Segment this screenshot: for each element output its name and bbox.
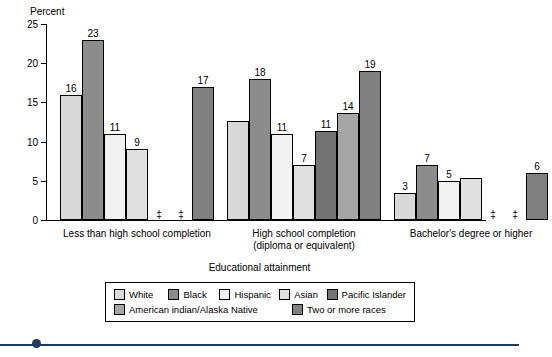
bar-value-two-or-more-g1: 19 xyxy=(364,59,375,70)
y-axis-line xyxy=(46,24,47,220)
y-tick-label-20: 20 xyxy=(27,58,38,69)
y-tick-label-0: 0 xyxy=(32,215,38,226)
legend-label-aian: American indian/Alaska Native xyxy=(129,304,258,315)
bar-value-black-g0: 23 xyxy=(87,28,98,39)
legend-label-two-or-more: Two or more races xyxy=(307,304,386,315)
bar-group-bachelors-or-higher: 3 7 5 ‡ ‡ 6 Bachelor's degree or higher xyxy=(394,24,548,220)
bar-two-or-more-g0: 17 xyxy=(192,87,214,220)
legend-swatch-white xyxy=(114,289,125,300)
legend-item-aian: American indian/Alaska Native xyxy=(114,304,292,315)
bar-white-g2: 3 xyxy=(394,193,416,220)
plot-area: 0 5 10 15 20 25 16 23 11 xyxy=(46,24,486,220)
y-tick-label-5: 5 xyxy=(32,175,38,186)
legend-swatch-hispanic xyxy=(219,289,230,300)
bar-value-white-g0: 16 xyxy=(65,83,76,94)
bar-asian-g0: 9 xyxy=(126,149,148,220)
legend-swatch-pacific-islander xyxy=(327,289,338,300)
legend-row-1: White Black Hispanic Asian Pacific Islan… xyxy=(114,289,406,300)
legend-label-pacific-islander: Pacific Islander xyxy=(342,289,406,300)
bar-value-asian-g0: 9 xyxy=(134,137,140,148)
suppressed-pacific-islander-g2: ‡ xyxy=(482,210,504,220)
legend-label-hispanic: Hispanic xyxy=(234,289,270,300)
bar-value-hispanic-g0: 11 xyxy=(110,122,120,133)
y-tick-label-15: 15 xyxy=(27,97,38,108)
x-axis-line xyxy=(46,220,486,221)
bar-hispanic-g1: 11 xyxy=(271,134,293,220)
bar-value-aian-g1: 14 xyxy=(342,101,353,112)
footer-bullet-icon xyxy=(32,339,41,348)
x-group-label-0: Less than high school completion xyxy=(46,228,228,240)
bar-group-less-than-high-school: 16 23 11 9 ‡ ‡ 17 Less than high school … xyxy=(60,24,214,220)
bar-hispanic-g0: 11 xyxy=(104,134,126,220)
y-axis-label: Percent xyxy=(30,6,64,17)
legend-swatch-aian xyxy=(114,304,125,315)
legend-item-two-or-more: Two or more races xyxy=(292,304,386,315)
legend-label-white: White xyxy=(129,289,153,300)
footer-rule xyxy=(0,344,519,346)
bar-value-hispanic-g2: 5 xyxy=(446,169,452,180)
legend-item-white: White xyxy=(114,289,168,300)
legend-label-black: Black xyxy=(183,289,206,300)
bar-value-two-or-more-g2: 6 xyxy=(534,161,540,172)
legend-item-black: Black xyxy=(168,289,219,300)
legend-swatch-two-or-more xyxy=(292,304,303,315)
bar-two-or-more-g1: 19 xyxy=(359,71,381,220)
bar-value-pacific-islander-g1: 11 xyxy=(321,119,331,130)
bar-hispanic-g2: 5 xyxy=(438,181,460,220)
chart-legend: White Black Hispanic Asian Pacific Islan… xyxy=(105,282,415,322)
bar-value-white-g2: 3 xyxy=(402,181,408,192)
x-axis-label: Educational attainment xyxy=(0,262,519,273)
legend-item-pacific-islander: Pacific Islander xyxy=(327,289,406,300)
bar-black-g0: 23 xyxy=(82,40,104,220)
legend-label-asian: Asian xyxy=(294,289,318,300)
legend-swatch-asian xyxy=(279,289,290,300)
legend-item-hispanic: Hispanic xyxy=(219,289,279,300)
x-group-label-2: Bachelor's degree or higher xyxy=(380,228,552,240)
bar-black-g1: 18 xyxy=(249,79,271,220)
bar-two-or-more-g2: 6 xyxy=(526,173,548,220)
bar-value-asian-g1: 7 xyxy=(301,153,307,164)
x-group-label-1: High school completion (diploma or equiv… xyxy=(213,228,395,252)
bar-value-black-g1: 18 xyxy=(254,67,265,78)
bar-asian-g1: 7 xyxy=(293,165,315,220)
bar-white-g1 xyxy=(227,121,249,220)
bar-white-g0: 16 xyxy=(60,95,82,220)
bar-asian-g2 xyxy=(460,178,482,220)
bar-value-two-or-more-g0: 17 xyxy=(197,75,208,86)
suppressed-aian-g0: ‡ xyxy=(170,210,192,220)
bar-value-hispanic-g1: 11 xyxy=(277,122,287,133)
bar-value-black-g2: 7 xyxy=(424,153,430,164)
bar-aian-g1: 14 xyxy=(337,113,359,220)
legend-item-asian: Asian xyxy=(279,289,326,300)
legend-row-2: American indian/Alaska Native Two or mor… xyxy=(114,304,406,315)
y-tick-label-10: 10 xyxy=(27,136,38,147)
bar-black-g2: 7 xyxy=(416,165,438,220)
suppressed-pacific-islander-g0: ‡ xyxy=(148,210,170,220)
legend-swatch-black xyxy=(168,289,179,300)
bar-pacific-islander-g1: 11 xyxy=(315,131,337,220)
y-tick-label-25: 25 xyxy=(27,19,38,30)
suppressed-aian-g2: ‡ xyxy=(504,210,526,220)
bar-group-high-school-completion: 18 11 7 11 14 19 High school completion … xyxy=(227,24,381,220)
